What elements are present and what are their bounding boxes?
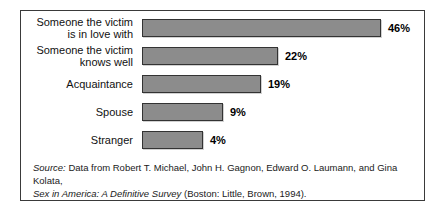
category-label: Spouse <box>21 106 142 119</box>
bar-row: Stranger 4% <box>21 131 424 149</box>
source-label: Source: <box>33 162 66 173</box>
category-label: Someone the victim is in love with <box>21 16 142 41</box>
bar-value-label: 4% <box>210 134 226 146</box>
bar-container: 46% <box>142 19 424 37</box>
bar-container: 4% <box>142 131 424 149</box>
source-note: Source: Data from Robert T. Michael, Joh… <box>33 161 412 200</box>
bar-row: Someone the victim is in love with 46% <box>21 19 424 37</box>
bar <box>142 75 261 93</box>
bar-value-label: 9% <box>230 106 246 118</box>
source-title: Sex in America: A Definitive Survey <box>33 188 181 199</box>
bar <box>142 103 223 121</box>
bar <box>142 19 381 37</box>
category-label: Stranger <box>21 134 142 147</box>
category-label: Someone the victim knows well <box>21 44 142 69</box>
bar-value-label: 46% <box>388 22 410 34</box>
bar-container: 9% <box>142 103 424 121</box>
bar <box>142 47 278 65</box>
bar-container: 22% <box>142 47 424 65</box>
bar-row: Acquaintance 19% <box>21 75 424 93</box>
bar-chart: Someone the victim is in love with 46% S… <box>21 11 424 157</box>
bar-container: 19% <box>142 75 424 93</box>
bar-value-label: 22% <box>285 50 307 62</box>
source-publication: (Boston: Little, Brown, 1994). <box>181 188 306 199</box>
bar-value-label: 19% <box>268 78 290 90</box>
source-line1-text: Data from Robert T. Michael, John H. Gag… <box>33 162 397 186</box>
bar-row: Someone the victim knows well 22% <box>21 47 424 65</box>
bar-row: Spouse 9% <box>21 103 424 121</box>
figure-frame: Someone the victim is in love with 46% S… <box>20 10 425 201</box>
bar <box>142 131 203 149</box>
category-label: Acquaintance <box>21 78 142 91</box>
